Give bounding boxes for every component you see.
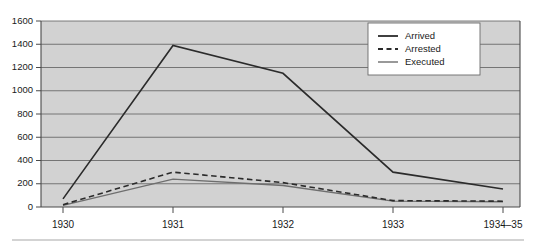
y-tick-label: 1600: [12, 15, 33, 26]
x-tick-label: 1931: [162, 219, 185, 230]
y-axis-tick-labels: 1600 1400 1200 1000 800 600 400 200 0: [12, 15, 33, 212]
x-tick-marks: [63, 207, 503, 213]
y-tick-marks: [36, 21, 41, 207]
y-tick-label: 1400: [12, 38, 33, 49]
x-tick-label: 1934–35: [484, 219, 523, 230]
y-tick-label: 1000: [12, 84, 33, 95]
legend-label-arrived: Arrived: [405, 30, 435, 41]
y-tick-label: 200: [17, 177, 33, 188]
y-tick-label: 800: [17, 108, 33, 119]
y-tick-label: 600: [17, 131, 33, 142]
x-tick-label: 1930: [52, 219, 75, 230]
legend-label-executed: Executed: [405, 56, 445, 67]
y-tick-label: 1200: [12, 61, 33, 72]
x-axis-tick-labels: 1930 1931 1932 1933 1934–35: [52, 219, 523, 230]
line-chart: 1600 1400 1200 1000 800 600 400 200 0 19…: [0, 0, 536, 244]
y-tick-label: 0: [28, 201, 33, 212]
y-tick-label: 400: [17, 154, 33, 165]
x-tick-label: 1932: [272, 219, 295, 230]
chart-figure: 1600 1400 1200 1000 800 600 400 200 0 19…: [0, 0, 536, 244]
legend-label-arrested: Arrested: [405, 43, 441, 54]
chart-legend: Arrived Arrested Executed: [368, 23, 480, 75]
x-tick-label: 1933: [382, 219, 405, 230]
